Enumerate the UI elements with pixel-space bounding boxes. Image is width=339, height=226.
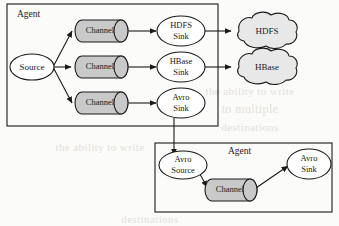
node-hdfs-sink[interactable]: HDFS Sink — [157, 16, 205, 46]
channel-1-label: Channel — [86, 25, 115, 35]
avro-sink-top-label-line2: Sink — [173, 103, 189, 113]
edge-source-to-channel-1 — [53, 31, 72, 67]
edges-channels-to-sinks — [129, 31, 156, 103]
avro-source-label-line1: Avro — [175, 154, 192, 164]
avro-sink-bottom-label-line1: Avro — [301, 153, 318, 163]
avro-sink-top-label-line1: Avro — [173, 92, 190, 102]
node-store-hbase[interactable]: HBase — [238, 48, 298, 84]
node-channel-2[interactable]: Channel — [75, 56, 128, 78]
agent-top-label: Agent — [17, 9, 41, 19]
flume-architecture-diagram: the ability to write to multiple destina… — [0, 0, 339, 226]
channel-2-label: Channel — [86, 61, 115, 71]
channel-3-cap — [114, 92, 128, 114]
edge-source-to-channel-3 — [53, 67, 72, 103]
diagram-canvas: the ability to write to multiple destina… — [0, 0, 339, 226]
avro-source-label-line2: Source — [171, 165, 195, 175]
agent-bottom-label: Agent — [228, 146, 252, 156]
hdfs-store-label: HDFS — [255, 26, 278, 36]
hdfs-sink-label-line1: HDFS — [170, 20, 192, 30]
node-avro-sink-bottom[interactable]: Avro Sink — [287, 149, 331, 179]
node-avro-source[interactable]: Avro Source — [159, 151, 207, 179]
watermark-line-4: the ability to write — [56, 141, 145, 153]
node-store-hdfs[interactable]: HDFS — [238, 12, 298, 48]
channel-1-cap — [114, 20, 128, 42]
node-channel-3[interactable]: Channel — [75, 92, 128, 114]
source-label: Source — [20, 62, 45, 72]
node-channel-bottom[interactable]: Channel — [205, 179, 257, 201]
channel-2-cap — [114, 56, 128, 78]
hbase-store-label: HBase — [255, 62, 279, 72]
channel-bottom-label: Channel — [216, 184, 245, 194]
node-avro-sink-top[interactable]: Avro Sink — [157, 88, 205, 118]
hdfs-sink-label-line2: Sink — [173, 31, 189, 41]
avro-sink-bottom-label-line2: Sink — [301, 164, 317, 174]
node-hbase-sink[interactable]: HBase Sink — [157, 52, 205, 82]
channel-bottom-cap — [243, 179, 257, 201]
edges-source-to-channels — [53, 31, 72, 103]
edge-channel-to-avro-sink — [253, 166, 288, 190]
hbase-sink-label-line1: HBase — [170, 56, 193, 66]
node-source[interactable]: Source — [10, 54, 54, 80]
node-channel-1[interactable]: Channel — [75, 20, 128, 42]
watermark-line-5: destinations — [121, 213, 178, 225]
watermark-line-1: the ability to write — [206, 85, 295, 97]
channel-3-label: Channel — [86, 97, 115, 107]
watermark-line-3: destinations — [221, 121, 278, 133]
hbase-sink-label-line2: Sink — [173, 67, 189, 77]
watermark-line-2: to multiple — [222, 102, 279, 116]
